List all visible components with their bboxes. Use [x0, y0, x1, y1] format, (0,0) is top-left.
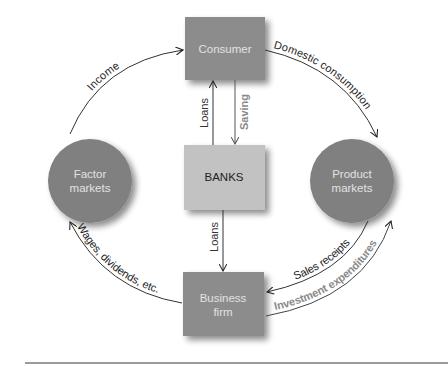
flow-loans-to-consumer: Loans: [198, 81, 213, 145]
wages-label: Wages, dividends, etc.: [75, 221, 161, 295]
factor-markets-label-line2: markets: [70, 182, 111, 194]
business-firm-label-line1: Business: [200, 292, 247, 304]
loans-to-consumer-label: Loans: [198, 98, 210, 128]
circular-flow-diagram: Consumer BANKS Business firm Factor mark…: [0, 0, 448, 366]
banks-node: BANKS: [184, 145, 265, 210]
svg-text:Investment expenditures: Investment expenditures: [273, 237, 379, 312]
arrow-sales-receipts: [267, 221, 368, 292]
flow-domestic-consumption: Domestic consumption: [265, 38, 377, 137]
factor-markets-node: Factor markets: [48, 139, 132, 223]
flow-saving: Saving: [235, 80, 250, 144]
flow-investment-expenditures: Investment expenditures: [266, 221, 391, 316]
product-markets-node: Product markets: [310, 139, 394, 223]
svg-text:Wages, dividends, etc.: Wages, dividends, etc.: [75, 221, 161, 295]
product-markets-label-line1: Product: [332, 168, 372, 180]
loans-to-business-label: Loans: [208, 222, 220, 252]
consumer-node: Consumer: [185, 17, 265, 80]
business-firm-node: Business firm: [183, 272, 264, 336]
factor-markets-label-line1: Factor: [74, 168, 107, 180]
flow-income: Income: [70, 50, 183, 134]
flow-sales-receipts: Sales receipts: [267, 221, 368, 292]
svg-text:Domestic consumption: Domestic consumption: [273, 38, 374, 111]
banks-label: BANKS: [205, 171, 244, 183]
bottom-divider: [25, 362, 448, 364]
flow-wages: Wages, dividends, etc.: [70, 221, 182, 303]
product-markets-label-line2: markets: [332, 182, 373, 194]
saving-label: Saving: [238, 94, 250, 130]
flow-loans-to-business: Loans: [208, 210, 223, 271]
arrow-income: [70, 50, 183, 134]
consumer-label: Consumer: [198, 43, 251, 55]
domestic-consumption-label: Domestic consumption: [273, 38, 374, 111]
investment-expenditures-label: Investment expenditures: [273, 237, 379, 312]
business-firm-label-line2: firm: [213, 306, 232, 318]
